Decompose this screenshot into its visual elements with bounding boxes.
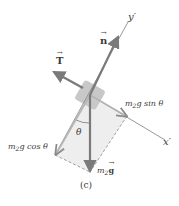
tension-vector-symbol: T <box>56 56 63 66</box>
parallel-mass: m <box>125 99 133 108</box>
normal-vector-symbol: n <box>100 36 107 46</box>
normal-force-label: n <box>100 36 107 46</box>
weight-mass: m <box>97 166 105 175</box>
theta-label: θ <box>76 128 81 137</box>
parallel-rest: g sin θ <box>136 99 163 108</box>
panel-label: (c) <box>80 181 92 190</box>
x-prime-label: x′ <box>163 137 171 147</box>
perpendicular-mass: m <box>8 142 16 151</box>
tension-label: T <box>56 56 63 66</box>
y-prime-label: y′ <box>128 12 136 22</box>
weight-vector-symbol: g <box>108 166 114 174</box>
perpendicular-component-label: m2g cos θ <box>8 143 48 152</box>
tension-arrow <box>54 72 83 88</box>
parallel-component-label: m2g sin θ <box>125 100 163 109</box>
weight-label: m2g <box>97 166 114 176</box>
perpendicular-rest: g cos θ <box>19 142 47 151</box>
